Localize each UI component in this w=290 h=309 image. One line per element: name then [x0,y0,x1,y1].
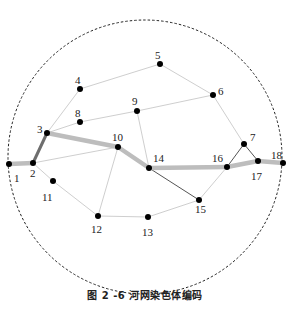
edge-1-2 [9,163,33,164]
dashed-boundary-circle [8,20,282,294]
node-label-1: 1 [14,172,20,184]
river-network-diagram: 123456789101112131415161718 [0,0,290,309]
node-label-7: 7 [250,131,256,143]
node-13 [145,214,151,220]
edge-3-10 [47,133,118,147]
node-6 [210,92,216,98]
node-8 [77,119,83,125]
edge-11-12 [53,181,98,216]
edge-8-9 [80,111,137,122]
node-3 [44,130,50,136]
figure-caption: 图 2 -6 河网染色体编码 [0,287,290,302]
node-14 [146,165,152,171]
edge-2-10 [33,147,118,163]
node-label-12: 12 [91,223,102,235]
edge-6-7 [213,95,244,144]
edge-12-13 [98,216,148,217]
node-label-15: 15 [195,203,207,215]
edge-12-10 [98,147,118,216]
node-11 [50,178,56,184]
node-label-11: 11 [42,191,53,203]
node-7 [241,141,247,147]
edge-14-16 [149,167,227,168]
edge-10-14 [118,147,149,168]
node-9 [134,108,140,114]
node-16 [224,164,230,170]
node-label-2: 2 [30,167,36,179]
node-label-18: 18 [271,149,283,161]
node-label-5: 5 [155,49,161,61]
edge-9-6 [137,95,213,111]
edge-15-16 [199,167,227,200]
node-4 [77,86,83,92]
edge-13-15 [148,200,199,217]
node-10 [115,144,121,150]
edge-3-8 [47,122,80,133]
node-label-6: 6 [218,85,224,97]
edge-14-15 [149,168,199,200]
edge-2-3 [33,133,47,163]
node-5 [157,61,163,67]
node-label-8: 8 [75,107,81,119]
edge-4-5 [80,64,160,89]
node-12 [95,213,101,219]
edge-5-6 [160,64,213,95]
node-17 [255,158,261,164]
node-label-13: 13 [142,226,154,238]
node-label-9: 9 [132,95,138,107]
node-1 [6,161,12,167]
node-label-4: 4 [75,74,81,86]
edge-16-17 [227,161,258,167]
node-label-17: 17 [251,170,263,182]
edge-17-18 [258,161,283,163]
node-label-16: 16 [212,152,224,164]
node-label-14: 14 [153,152,165,164]
edge-2-11 [33,163,53,181]
node-label-3: 3 [37,123,43,135]
edge-7-17 [244,144,258,161]
node-label-10: 10 [112,131,124,143]
node-2 [30,160,36,166]
